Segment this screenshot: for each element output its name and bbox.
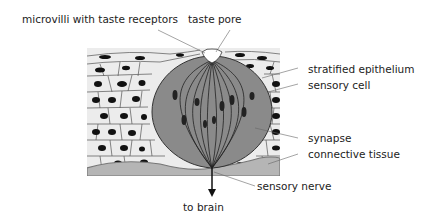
- label-microvilli: microvilli with taste receptors: [22, 13, 178, 25]
- label-connective-tissue: connective tissue: [308, 148, 400, 160]
- label-to-brain: to brain: [183, 201, 224, 213]
- label-taste-pore: taste pore: [188, 13, 242, 25]
- label-sensory-nerve: sensory nerve: [257, 180, 331, 192]
- label-stratified-epithelium: stratified epithelium: [308, 63, 414, 75]
- label-sensory-cell: sensory cell: [308, 79, 370, 91]
- arrow-down-icon: [208, 189, 216, 197]
- label-synapse: synapse: [308, 132, 351, 144]
- taste-bud-diagram: [0, 0, 429, 215]
